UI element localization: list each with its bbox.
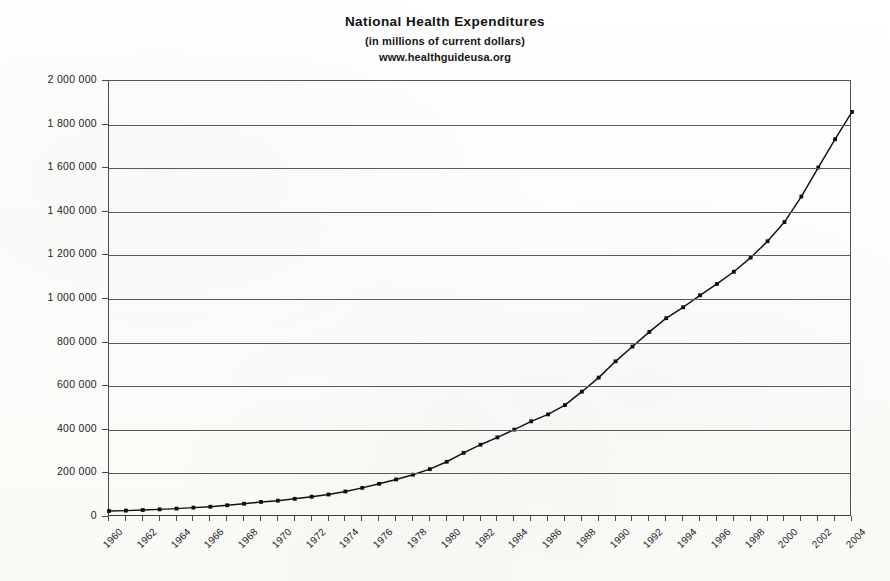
- data-point-marker: [479, 443, 483, 447]
- x-axis-tick-mark: [665, 516, 666, 521]
- x-axis-tick-mark: [851, 516, 852, 521]
- x-axis-tick-mark: [395, 516, 396, 521]
- data-point-marker: [647, 330, 651, 334]
- x-axis-tick-mark: [783, 516, 784, 521]
- data-point-marker: [580, 390, 584, 394]
- x-axis-tick-mark: [243, 516, 244, 521]
- x-axis-tick-mark: [361, 516, 362, 521]
- data-point-marker: [141, 508, 145, 512]
- chart-plot-area: [108, 80, 851, 516]
- data-point-marker: [546, 412, 550, 416]
- gridline-horizontal: [109, 168, 850, 169]
- data-point-marker: [293, 497, 297, 501]
- gridline-horizontal: [109, 212, 850, 213]
- x-axis-tick-mark: [530, 516, 531, 521]
- data-point-marker: [175, 507, 179, 511]
- x-axis-tick-mark: [192, 516, 193, 521]
- data-point-marker: [563, 403, 567, 407]
- y-axis-tick-mark: [102, 211, 108, 212]
- x-axis-tick-mark: [767, 516, 768, 521]
- data-point-marker: [377, 482, 381, 486]
- y-axis-tick-label: 0: [0, 509, 97, 521]
- y-axis-tick-mark: [102, 298, 108, 299]
- data-point-marker: [192, 506, 196, 510]
- x-axis-tick-mark: [581, 516, 582, 521]
- x-axis-tick-mark: [294, 516, 295, 521]
- y-axis-tick-label: 200 000: [0, 465, 97, 477]
- x-axis-tick-mark: [800, 516, 801, 521]
- data-point-marker: [833, 137, 837, 141]
- data-point-marker: [462, 451, 466, 455]
- data-point-marker: [327, 493, 331, 497]
- data-point-marker: [225, 503, 229, 507]
- gridline-horizontal: [109, 299, 850, 300]
- gridline-horizontal: [109, 343, 850, 344]
- x-axis-tick-mark: [648, 516, 649, 521]
- y-axis-tick-label: 400 000: [0, 422, 97, 434]
- chart-title-block: National Health Expenditures (in million…: [0, 14, 890, 66]
- x-axis-tick-mark: [429, 516, 430, 521]
- y-axis-tick-label: 600 000: [0, 378, 97, 390]
- y-axis-tick-label: 800 000: [0, 335, 97, 347]
- data-point-marker: [732, 270, 736, 274]
- data-point-marker: [107, 509, 111, 513]
- data-point-marker: [698, 293, 702, 297]
- data-point-marker: [310, 495, 314, 499]
- y-axis-tick-mark: [102, 167, 108, 168]
- page-title: National Health Expenditures: [0, 14, 890, 31]
- chart-source-url: www.healthguideusa.org: [0, 49, 890, 66]
- x-axis-tick-mark: [176, 516, 177, 521]
- data-point-marker: [259, 500, 263, 504]
- data-point-marker: [715, 282, 719, 286]
- data-point-marker: [681, 305, 685, 309]
- x-axis-tick-mark: [260, 516, 261, 521]
- x-axis-tick-mark: [598, 516, 599, 521]
- x-axis-tick-mark: [513, 516, 514, 521]
- y-axis-tick-mark: [102, 429, 108, 430]
- x-axis-tick-mark: [328, 516, 329, 521]
- x-axis-tick-mark: [547, 516, 548, 521]
- data-point-marker: [799, 195, 803, 199]
- x-axis-tick-mark: [480, 516, 481, 521]
- data-point-marker: [631, 345, 635, 349]
- gridline-horizontal: [109, 255, 850, 256]
- y-axis-tick-label: 1 000 000: [0, 291, 97, 303]
- y-axis-tick-label: 2 000 000: [0, 73, 97, 85]
- x-axis-tick-mark: [125, 516, 126, 521]
- gridline-horizontal: [109, 386, 850, 387]
- x-axis-tick-mark: [716, 516, 717, 521]
- y-axis-tick-mark: [102, 342, 108, 343]
- chart-subtitle: (in millions of current dollars): [0, 33, 890, 50]
- gridline-horizontal: [109, 430, 850, 431]
- y-axis-tick-mark: [102, 254, 108, 255]
- data-point-marker: [394, 478, 398, 482]
- x-axis-tick-mark: [344, 516, 345, 521]
- y-axis-tick-mark: [102, 385, 108, 386]
- x-axis-tick-mark: [699, 516, 700, 521]
- x-axis-tick-mark: [631, 516, 632, 521]
- data-point-marker: [428, 467, 432, 471]
- y-axis-tick-mark: [102, 80, 108, 81]
- x-axis-tick-mark: [159, 516, 160, 521]
- data-point-marker: [344, 490, 348, 494]
- data-point-marker: [664, 316, 668, 320]
- data-point-marker: [850, 110, 854, 114]
- data-point-marker: [360, 486, 364, 490]
- x-axis-tick-mark: [311, 516, 312, 521]
- y-axis-tick-mark: [102, 472, 108, 473]
- x-axis-tick-mark: [834, 516, 835, 521]
- x-axis-tick-mark: [682, 516, 683, 521]
- data-point-marker: [158, 507, 162, 511]
- data-point-marker: [208, 505, 212, 509]
- x-axis-tick-mark: [750, 516, 751, 521]
- x-axis-tick-mark: [226, 516, 227, 521]
- gridline-horizontal: [109, 125, 850, 126]
- data-point-marker: [783, 220, 787, 224]
- x-axis-tick-mark: [817, 516, 818, 521]
- data-point-marker: [445, 460, 449, 464]
- y-axis-tick-mark: [102, 124, 108, 125]
- x-axis-tick-mark: [496, 516, 497, 521]
- data-point-marker: [242, 502, 246, 506]
- data-point-marker: [124, 509, 128, 513]
- y-axis-tick-label: 1 600 000: [0, 160, 97, 172]
